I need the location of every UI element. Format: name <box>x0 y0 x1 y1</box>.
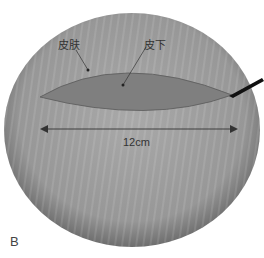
subcutaneous-leader-dot <box>122 84 125 87</box>
incision-diagram: 皮肤 皮下 12cm B <box>0 0 264 258</box>
skin-leader-dot <box>87 69 90 72</box>
subcutaneous-label: 皮下 <box>144 36 166 52</box>
dimension-label: 12cm <box>123 136 150 148</box>
diagram-graphic <box>0 0 264 258</box>
skin-label: 皮肤 <box>58 36 80 52</box>
panel-label: B <box>10 234 19 249</box>
